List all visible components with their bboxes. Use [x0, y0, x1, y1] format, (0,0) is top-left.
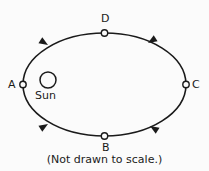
orbit-direction-arrows	[38, 35, 159, 134]
position-marker-a	[20, 81, 26, 87]
position-marker-b	[101, 133, 107, 139]
position-label-a: A	[8, 79, 16, 90]
position-label-d: D	[101, 13, 109, 24]
position-label-b: B	[102, 142, 110, 153]
orbit-diagram-figure: D A C B Sun (Not drawn to scale.)	[0, 0, 209, 171]
sun-circle	[40, 72, 56, 88]
arrowhead-lower-right-icon	[148, 123, 159, 134]
position-label-c: C	[192, 79, 200, 90]
figure-caption: (Not drawn to scale.)	[0, 154, 209, 166]
position-marker-c	[183, 81, 189, 87]
position-marker-d	[101, 30, 107, 36]
sun-label: Sun	[35, 90, 56, 101]
